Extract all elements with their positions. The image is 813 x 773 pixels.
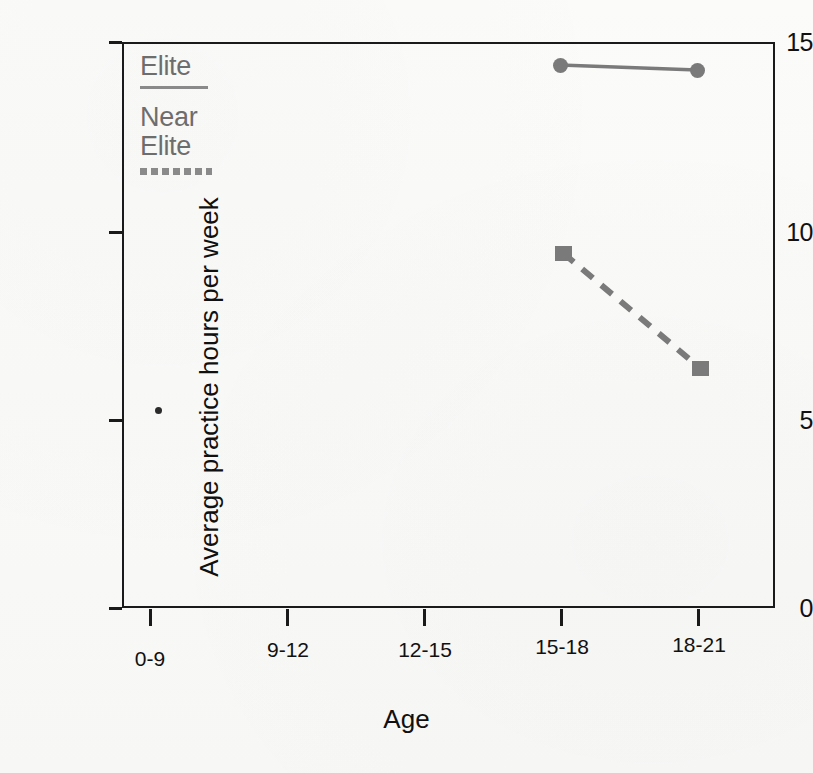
x-tick-mark-0-9: [149, 609, 152, 626]
legend-label-near-elite-line2: Elite: [140, 132, 290, 160]
y-tick-mark-15: [109, 41, 122, 44]
x-axis-title: Age: [0, 704, 813, 735]
legend-label-elite: Elite: [140, 52, 290, 80]
legend-swatch-solid-line: [140, 86, 208, 89]
legend-entry-elite: Elite: [140, 52, 290, 89]
legend-label-near-elite-line1: Near: [140, 103, 290, 131]
x-tick-label-18-21: 18-21: [672, 634, 726, 655]
x-tick-mark-9-12: [286, 609, 289, 626]
legend-entry-near-elite: Near Elite: [140, 103, 290, 175]
legend-swatch-dotted-line: [140, 168, 212, 175]
x-tick-label-9-12: 9-12: [267, 639, 309, 660]
x-tick-label-15-18: 15-18: [535, 636, 589, 657]
chart-legend: Elite Near Elite: [140, 52, 290, 189]
x-tick-mark-15-18: [560, 609, 563, 626]
x-tick-mark-18-21: [697, 609, 700, 626]
figure-page: Average practice hours per week 15 10 5 …: [0, 0, 813, 773]
x-tick-label-0-9: 0-9: [135, 648, 165, 669]
y-tick-mark-0: [109, 607, 122, 610]
y-tick-mark-10: [109, 231, 122, 234]
x-tick-mark-12-15: [423, 609, 426, 626]
y-tick-mark-5: [109, 419, 122, 422]
x-tick-label-12-15: 12-15: [398, 639, 452, 660]
chart-figure: Average practice hours per week 15 10 5 …: [0, 0, 813, 773]
